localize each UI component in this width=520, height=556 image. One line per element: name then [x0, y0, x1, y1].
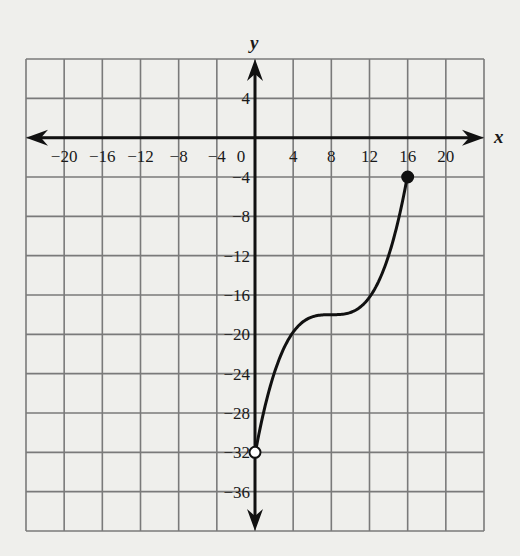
y-tick-label: −28	[223, 404, 250, 423]
x-tick-label: −12	[127, 147, 154, 166]
y-axis-label: y	[248, 32, 259, 53]
x-tick-label: 12	[361, 147, 378, 166]
closed-endpoint	[402, 172, 413, 183]
y-tick-label: −24	[223, 365, 250, 384]
x-tick-label: 20	[437, 147, 454, 166]
y-tick-label: −12	[223, 247, 250, 266]
x-tick-label: −16	[89, 147, 116, 166]
coordinate-graph: −20−16−12−8−40481216204−4−8−12−16−20−24−…	[0, 0, 520, 556]
y-tick-label: −20	[223, 325, 250, 344]
y-tick-label: −32	[223, 443, 250, 462]
x-tick-label: 4	[289, 147, 298, 166]
x-tick-label: 16	[399, 147, 416, 166]
x-tick-label: −20	[51, 147, 78, 166]
y-tick-label: 4	[242, 89, 251, 108]
x-axis-label: x	[493, 126, 504, 147]
x-tick-label: −8	[170, 147, 188, 166]
x-tick-label: 0	[237, 147, 246, 166]
x-tick-label: 8	[327, 147, 336, 166]
y-tick-label: −16	[223, 286, 250, 305]
y-tick-label: −8	[232, 207, 250, 226]
y-tick-label: −4	[232, 168, 251, 187]
x-tick-label: −4	[208, 147, 227, 166]
y-tick-label: −36	[223, 483, 250, 502]
open-endpoint	[250, 447, 261, 458]
